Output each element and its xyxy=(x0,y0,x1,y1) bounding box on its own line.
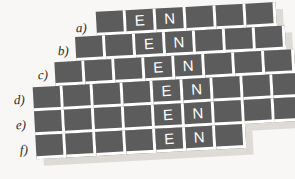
grid-cell-blank[interactable] xyxy=(215,124,246,150)
grid-cell-blank[interactable] xyxy=(64,108,95,134)
grid-cell-letter[interactable]: N xyxy=(156,7,187,33)
grid-cell-blank[interactable] xyxy=(264,49,295,75)
row-label-1: b) xyxy=(58,43,69,59)
grid-cell-blank[interactable] xyxy=(272,73,295,99)
grid-cell-blank[interactable] xyxy=(114,57,145,83)
grid-cell-letter[interactable]: N xyxy=(184,102,215,128)
grid-cell-letter[interactable]: N xyxy=(185,126,216,152)
grid-cell-blank[interactable] xyxy=(125,129,156,155)
grid-cell-blank[interactable] xyxy=(33,86,64,112)
row-label-0: a) xyxy=(76,20,87,36)
grid-cell-blank[interactable] xyxy=(214,100,245,126)
grid-cell-blank[interactable] xyxy=(54,61,85,87)
grid-cell-blank[interactable] xyxy=(225,27,256,53)
grid-cell-blank[interactable] xyxy=(245,2,276,28)
grid-stack: ENENENENENEN xyxy=(0,0,295,179)
grid-cell-blank[interactable] xyxy=(105,34,136,60)
grid-cell-letter[interactable]: N xyxy=(174,54,205,80)
grid-cell-letter[interactable]: E xyxy=(144,56,175,82)
grid-cell-letter[interactable]: N xyxy=(165,30,196,56)
grid-cell-letter[interactable]: E xyxy=(155,127,186,153)
grid-cell-blank[interactable] xyxy=(274,97,295,123)
grid-cell-blank[interactable] xyxy=(216,4,247,30)
row-label-5: f) xyxy=(20,142,28,158)
grid-cell-blank[interactable] xyxy=(244,98,275,124)
grid-cell-letter[interactable]: E xyxy=(154,103,185,129)
grid-cell-blank[interactable] xyxy=(35,134,66,160)
grid-cell-blank[interactable] xyxy=(94,106,125,132)
grid-cell-letter[interactable]: E xyxy=(153,79,184,105)
grid-cell-blank[interactable] xyxy=(123,81,154,107)
figure-container: ENENENENENEN a)b)c)d)e)f) xyxy=(0,0,295,179)
row-label-3: d) xyxy=(14,92,25,108)
grid-cell-letter[interactable]: N xyxy=(182,78,213,104)
grid-cell-blank[interactable] xyxy=(212,76,243,102)
grid-cell-letter[interactable]: E xyxy=(126,9,157,35)
grid-cell-blank[interactable] xyxy=(204,52,235,78)
grid-cell-letter[interactable]: E xyxy=(135,32,166,58)
row-label-4: e) xyxy=(16,117,27,133)
grid-cell-blank[interactable] xyxy=(34,110,65,136)
grid-cell-blank[interactable] xyxy=(195,29,226,55)
grid-cell-blank[interactable] xyxy=(96,10,127,36)
grid-cell-blank[interactable] xyxy=(186,5,217,31)
grid-cell-blank[interactable] xyxy=(95,130,126,156)
grid-cell-blank[interactable] xyxy=(234,51,265,77)
grid-cell-blank[interactable] xyxy=(242,74,273,100)
grid-cell-blank[interactable] xyxy=(65,132,96,158)
grid-cell-blank[interactable] xyxy=(93,82,124,108)
grid-cell-blank[interactable] xyxy=(124,105,155,131)
grid-cell-blank[interactable] xyxy=(75,35,106,61)
grid-cell-blank[interactable] xyxy=(255,26,286,52)
row-label-2: c) xyxy=(38,67,49,83)
grid-cell-blank[interactable] xyxy=(63,84,94,110)
grid-cell-blank[interactable] xyxy=(84,59,115,85)
